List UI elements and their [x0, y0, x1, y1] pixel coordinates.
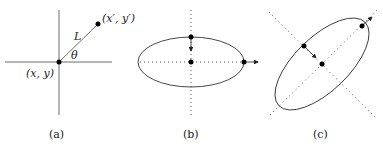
origin-point: [57, 60, 62, 65]
length-label: L: [73, 30, 81, 43]
panel-c: (c): [260, 3, 383, 141]
center-point-c: [320, 62, 325, 67]
caption-b: (b): [183, 128, 199, 141]
center-point: [189, 60, 194, 65]
major-axis-point: [360, 24, 365, 29]
figure-canvas: (x′, y′) L θ (x, y) (a) (b) (c): [0, 0, 383, 151]
angle-label: θ: [71, 49, 78, 62]
endpoint-label: (x′, y′): [102, 12, 135, 25]
caption-a: (a): [49, 128, 64, 141]
origin-label: (x, y): [26, 67, 54, 80]
right-point: [242, 60, 247, 65]
caption-c: (c): [313, 128, 328, 141]
panel-b: (b): [138, 10, 258, 141]
panel-a: (x′, y′) L θ (x, y) (a): [5, 10, 135, 141]
top-point: [189, 35, 194, 40]
endpoint-point: [96, 22, 101, 27]
minor-axis-point: [302, 44, 307, 49]
inward-arrow-c: [304, 46, 316, 58]
